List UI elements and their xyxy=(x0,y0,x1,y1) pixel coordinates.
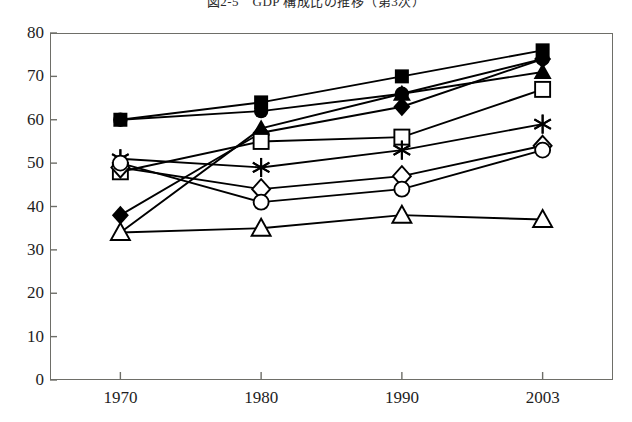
x-tick-label: 1990 xyxy=(357,389,447,406)
x-tick-label: 2003 xyxy=(498,389,588,406)
x-tick-label: 1970 xyxy=(75,389,165,406)
x-axis: 1970198019902003 xyxy=(0,0,632,422)
chart-figure: 図2-5 GDP 構成比の推移（第3次） 01020304050607080 1… xyxy=(0,0,632,422)
x-tick-label: 1980 xyxy=(216,389,306,406)
